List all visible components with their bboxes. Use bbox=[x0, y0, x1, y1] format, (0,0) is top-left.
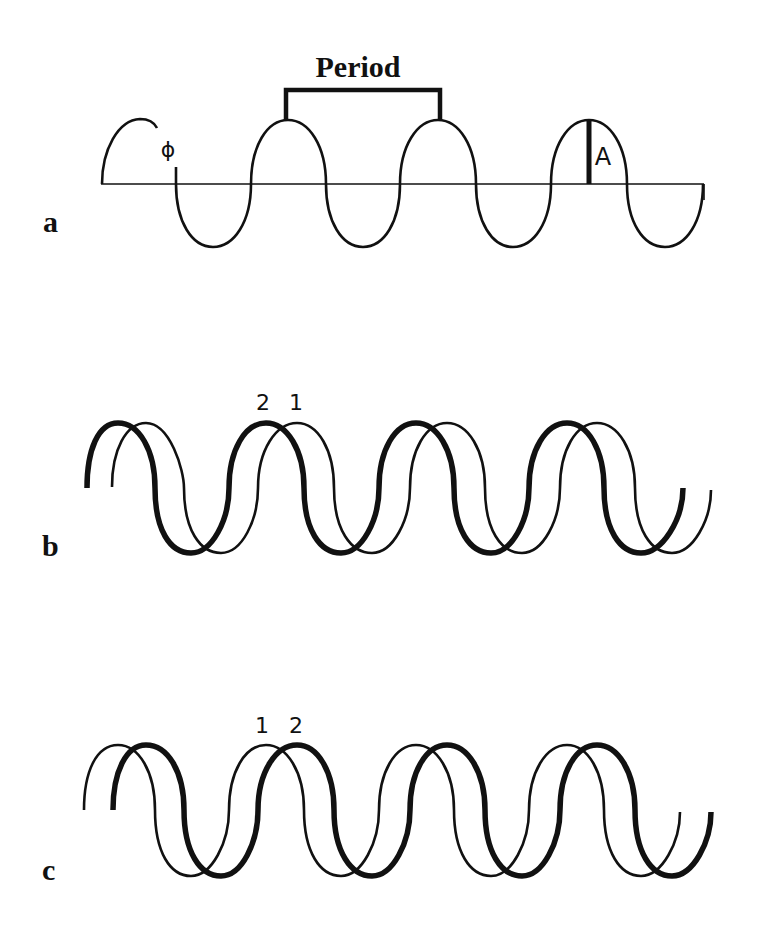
period-bracket bbox=[286, 90, 440, 119]
wave-label-1-b: 1 bbox=[289, 390, 303, 415]
panel-a: a Period ϕ A bbox=[43, 50, 704, 247]
phase-leading-arc bbox=[102, 119, 157, 184]
panel-label-c: c bbox=[42, 853, 55, 886]
panel-b: b 2 1 bbox=[42, 390, 711, 562]
wave-label-1-c: 1 bbox=[255, 713, 269, 738]
sine-wave-figure: a Period ϕ A b 2 1 c 1 2 bbox=[0, 0, 758, 931]
amplitude-label: A bbox=[595, 143, 612, 171]
wave-label-2-b: 2 bbox=[256, 390, 270, 415]
phase-symbol: ϕ bbox=[161, 137, 176, 162]
panel-c: c 1 2 bbox=[42, 713, 711, 886]
wave-2-thick-b bbox=[87, 423, 683, 553]
period-label: Period bbox=[316, 50, 401, 83]
panel-label-a: a bbox=[43, 205, 58, 238]
wave-1-thin-b bbox=[112, 423, 711, 553]
panel-label-b: b bbox=[42, 529, 59, 562]
wave-2-thick-c bbox=[113, 745, 711, 876]
wave-label-2-c: 2 bbox=[289, 713, 303, 738]
